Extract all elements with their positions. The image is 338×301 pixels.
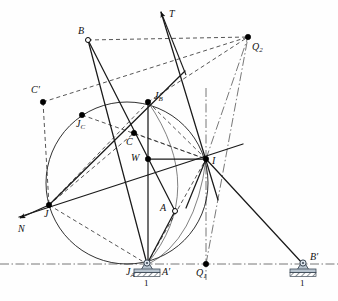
point-label-A: A (160, 203, 166, 213)
arc-arc-JB-JA (147, 102, 178, 264)
dashed-line-J-C (49, 133, 134, 205)
point-label-Cp: C′ (31, 85, 40, 95)
point-label-J: J (44, 209, 48, 219)
line-I-down (186, 159, 206, 208)
point-marker-J (46, 202, 51, 207)
dashed-line-J-JA (49, 205, 147, 264)
point-marker-Cp (40, 99, 45, 104)
point-label-JC: JC (76, 119, 85, 131)
point-label-C: C (126, 137, 133, 147)
line-I-Bp (206, 159, 303, 264)
point-label-W: W (131, 153, 139, 163)
axis-arrow-T (161, 12, 186, 75)
dashed-line-group (43, 37, 248, 264)
construction-line-I-Q2 (206, 37, 248, 159)
support-tag-support-A: 1 (144, 279, 149, 288)
diagram-svg (0, 0, 338, 301)
dashed-line-B-Q2 (88, 37, 248, 40)
point-label-JB: JB (154, 91, 163, 103)
point-label-Q2: Q2 (252, 42, 263, 54)
point-marker-JB (145, 99, 150, 104)
point-label-Q1: Q1 (196, 268, 207, 280)
point-marker-B (86, 38, 91, 43)
point-marker-JC (79, 112, 84, 117)
pin-support-support-A (134, 260, 160, 277)
arc-group (147, 102, 206, 265)
arrow-label-N: N (18, 224, 25, 234)
point-marker-A (173, 209, 178, 214)
point-label-Ap: A′ (162, 267, 170, 277)
line-T-line (161, 12, 218, 200)
dashed-line-Cp-Q2 (43, 37, 248, 102)
point-label-I: I (212, 156, 215, 166)
support-tag-support-B: 1 (300, 279, 305, 288)
point-marker-W (145, 156, 150, 161)
figure-canvas: BQ2C′JBJCCWIJAJAA′Q1B′TN11 (0, 0, 338, 301)
point-label-B: B (78, 26, 84, 36)
pin-support-support-B (290, 260, 316, 277)
point-marker-Q2 (245, 34, 250, 39)
point-marker-I (203, 156, 208, 161)
construction-line-Q1-Q2 (206, 37, 248, 264)
point-marker-Q1 (203, 261, 208, 266)
arrow-group (20, 12, 186, 218)
point-marker-C (131, 130, 136, 135)
arrow-label-T: T (169, 9, 175, 19)
point-label-Bp: B′ (310, 252, 318, 262)
point-label-JA: JA (126, 267, 135, 279)
